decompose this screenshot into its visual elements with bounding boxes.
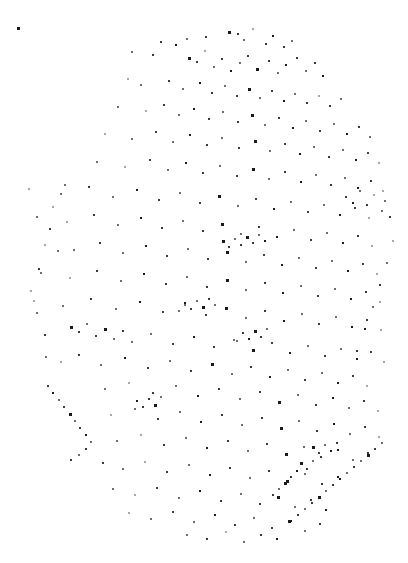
speck — [85, 448, 87, 450]
speck — [344, 177, 346, 179]
speckle-field-layer — [0, 0, 408, 563]
speck — [157, 418, 159, 420]
speck — [110, 414, 112, 416]
speck — [184, 304, 186, 306]
speck — [363, 400, 365, 402]
speck — [104, 133, 106, 135]
speck — [305, 70, 307, 72]
speck — [96, 270, 98, 272]
speck — [122, 468, 124, 470]
speck — [240, 233, 242, 235]
speck — [149, 159, 151, 161]
speck — [300, 285, 302, 287]
speck — [73, 249, 75, 251]
speck — [63, 406, 65, 408]
speck — [206, 286, 208, 288]
speck — [307, 211, 309, 213]
speck — [163, 444, 165, 446]
speck — [250, 366, 252, 368]
speck — [214, 514, 216, 516]
speck — [99, 242, 101, 244]
speck — [227, 440, 229, 442]
speck — [205, 314, 207, 316]
speck — [102, 462, 104, 464]
speck — [284, 482, 287, 485]
speck — [172, 141, 174, 143]
speck — [245, 261, 247, 263]
speck — [370, 351, 372, 353]
speck — [370, 180, 372, 182]
speck — [277, 72, 279, 74]
speck — [30, 290, 32, 292]
speck — [300, 462, 303, 465]
speck — [120, 280, 122, 282]
speck — [277, 496, 280, 499]
speck — [255, 198, 257, 200]
speck — [284, 143, 286, 145]
speck — [165, 283, 167, 285]
speck — [145, 110, 147, 112]
speck — [311, 502, 313, 504]
speck — [306, 468, 308, 470]
speck — [304, 473, 306, 475]
speck — [124, 166, 126, 168]
speck — [184, 302, 186, 304]
speck — [245, 317, 247, 319]
speck — [237, 33, 239, 35]
speck — [136, 400, 138, 402]
speck — [236, 175, 238, 177]
speck — [70, 326, 73, 329]
speck — [124, 357, 126, 359]
speck — [222, 240, 225, 243]
speck — [78, 331, 80, 333]
speck — [167, 169, 169, 171]
speck — [329, 105, 331, 107]
speck — [161, 227, 163, 229]
speck — [312, 460, 314, 462]
speck — [117, 224, 119, 226]
speck — [321, 372, 323, 374]
speck — [196, 300, 198, 302]
speck — [294, 506, 296, 508]
speck — [143, 273, 145, 275]
speck — [199, 490, 201, 492]
speck — [358, 126, 360, 128]
speck — [128, 512, 130, 514]
speck — [236, 95, 238, 97]
speck — [145, 245, 147, 247]
speck — [69, 413, 72, 416]
speck — [172, 511, 174, 513]
speck — [163, 104, 165, 106]
speck — [321, 483, 323, 485]
speck — [185, 437, 187, 439]
speck — [199, 202, 201, 204]
speck — [104, 328, 107, 331]
speck — [224, 85, 226, 87]
speck — [268, 178, 270, 180]
speck — [379, 301, 381, 303]
speck — [297, 514, 299, 516]
speck — [320, 456, 322, 458]
speck — [342, 242, 344, 244]
speck — [373, 194, 375, 196]
speck — [269, 376, 271, 378]
speck — [380, 329, 382, 331]
speck — [182, 88, 184, 90]
speck — [292, 127, 294, 129]
speck — [209, 474, 211, 476]
speck — [286, 480, 289, 483]
speck — [260, 534, 262, 536]
image-canvas — [0, 0, 408, 563]
speck — [367, 452, 369, 454]
speck — [290, 520, 292, 522]
speck — [252, 349, 255, 352]
speck — [218, 388, 220, 390]
speck — [376, 273, 378, 275]
speck — [298, 420, 300, 422]
speck — [90, 441, 92, 443]
speck — [362, 263, 364, 265]
speck — [310, 239, 312, 241]
speck — [62, 305, 64, 307]
speck — [271, 527, 273, 529]
speck — [237, 205, 239, 207]
